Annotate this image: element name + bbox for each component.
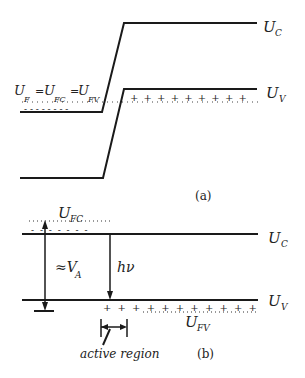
caption-a: (a) [195, 189, 212, 203]
label-ufv-sub-a: FV [87, 95, 101, 104]
active-region-arrow-right [120, 324, 127, 330]
label-uv-a: U [266, 84, 280, 102]
label-uc-sub-a: C [275, 28, 282, 38]
panel-b: - - - - - - - + + + + + + + + + + + ≈V A… [22, 204, 289, 361]
va-arrow-head-down [42, 302, 48, 311]
label-ufc-sub-a: FC [53, 95, 66, 104]
label-uc-sub-b: C [281, 239, 288, 249]
label-uf-sub: F [23, 95, 30, 104]
label-uc-b: U [268, 229, 282, 247]
label-uv-b: U [268, 292, 282, 310]
label-va-sub: A [74, 270, 82, 280]
label-active-region: active region [80, 347, 160, 361]
hv-arrow-head [107, 291, 113, 300]
hole-marks-b: + + + + + + + + + + + [103, 302, 258, 313]
equals-1: = [35, 85, 44, 98]
label-hv: hν [117, 259, 135, 275]
electron-marks-a: - - - - - - - - [24, 104, 68, 114]
label-uv-sub-b: V [281, 302, 289, 312]
panel-a: - - - - - - - - + + + + + + + + + U C U … [14, 18, 287, 203]
active-region-arrow-left [101, 324, 108, 330]
band-diagram: - - - - - - - - + + + + + + + + + U C U … [0, 0, 305, 378]
active-region-pointer [103, 329, 110, 345]
hole-marks-a: + + + + + + + + + [130, 92, 248, 103]
label-ufc-sub-b: FC [69, 214, 83, 224]
caption-b: (b) [197, 347, 214, 361]
label-uv-sub-a: V [279, 94, 287, 104]
label-ufv-sub-b: FV [196, 323, 211, 333]
